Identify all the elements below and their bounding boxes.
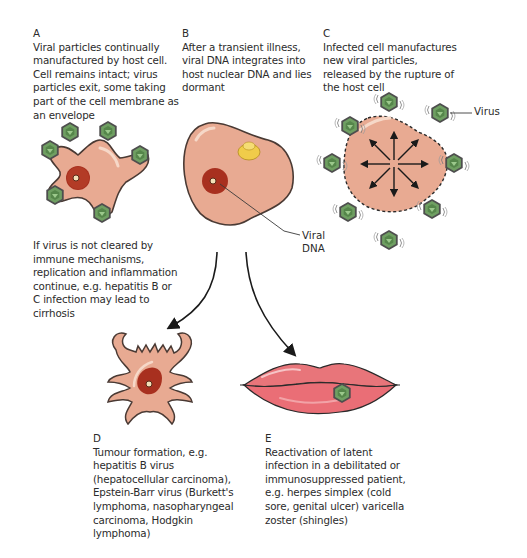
arrow-to-e [246,252,292,352]
panel-e-lips [240,363,400,413]
diagram-artwork [0,0,527,558]
arrow-to-d [172,252,217,326]
panel-b-cell [184,123,300,235]
panel-a-cell [41,121,148,223]
panel-c-cell [317,92,472,250]
